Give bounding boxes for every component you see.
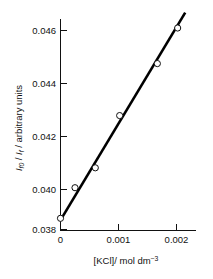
chart-plot-area: 0.046 0.044 0.042 0.040 0.038 0 0.001 0.… [0,0,213,279]
y-tick-label-1: 0.044 [32,78,56,89]
x-tick-marks [61,224,177,231]
y-tick-label-4: 0.038 [32,224,56,235]
x-axis-title-main: [KCl]/ mol dm [94,255,151,266]
y-tick-labels: 0.046 0.044 0.042 0.040 0.038 [32,25,56,235]
chart-figure: 0.046 0.044 0.042 0.040 0.038 0 0.001 0.… [0,0,213,279]
y-axis-title-tail: / arbitrary units [13,85,24,151]
y-tick-marks [61,31,68,230]
data-point [175,25,181,31]
x-tick-label-1: 0.001 [107,234,131,245]
data-point [57,215,63,221]
y-tick-label-3: 0.040 [32,184,56,195]
y-axis-title-sep: / [13,155,24,163]
x-tick-label-0: 0 [58,234,63,245]
data-point [117,112,123,118]
data-point [72,185,78,191]
axes-group [61,19,197,231]
svg-text:[KCl]/ mol dm−3: [KCl]/ mol dm−3 [94,255,159,266]
y-axis-title: If0 / If / arbitrary units [13,85,25,171]
data-point [154,60,160,66]
x-tick-label-2: 0.002 [165,234,189,245]
svg-text:If0 / If / arbitrary units: If0 / If / arbitrary units [13,85,25,171]
x-axis-title-sup: −3 [151,255,159,262]
y-tick-label-2: 0.042 [32,131,56,142]
x-axis-title: [KCl]/ mol dm−3 [94,255,159,266]
y-tick-label-0: 0.046 [32,25,56,36]
x-tick-labels: 0 0.001 0.002 [58,234,189,245]
data-point [92,165,98,171]
